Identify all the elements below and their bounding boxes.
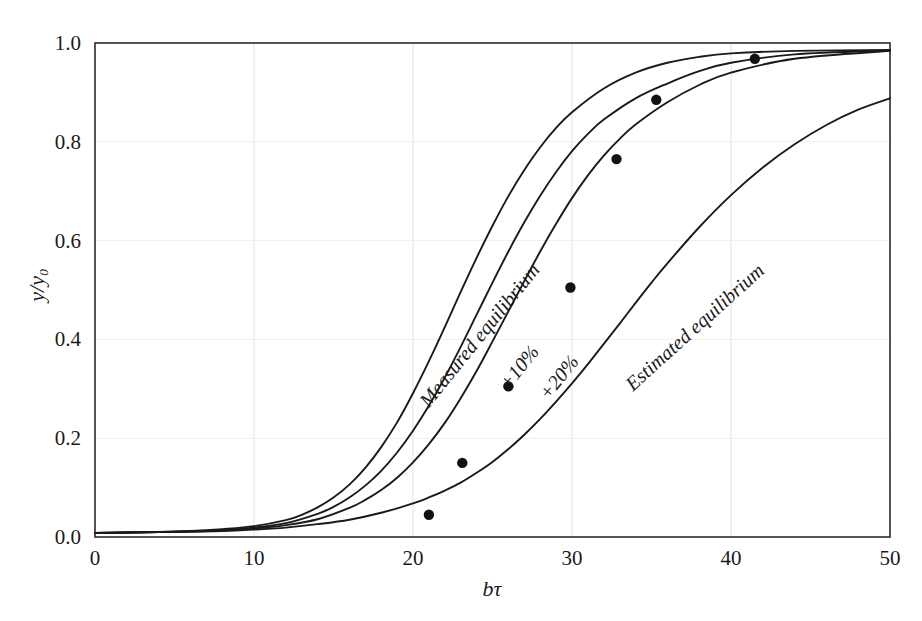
data-point-7 <box>750 54 760 64</box>
data-point-2 <box>457 458 467 468</box>
x-axis-title: bτ <box>483 576 503 601</box>
data-point-1 <box>424 510 434 520</box>
chart-figure: Measured equilibrium+10%+20%Estimated eq… <box>0 0 922 621</box>
data-point-6 <box>651 95 661 105</box>
y-tick-label-3: 0.6 <box>55 229 81 253</box>
y-tick-label-1: 0.2 <box>55 426 81 450</box>
svg-text:y/y₀: y/y₀ <box>24 268 49 303</box>
y-tick-label-0: 0.0 <box>55 525 81 549</box>
chart-svg: Measured equilibrium+10%+20%Estimated eq… <box>0 0 922 621</box>
y-axis-title: y/y₀ <box>24 268 49 303</box>
x-tick-label-4: 40 <box>721 546 742 570</box>
data-point-5 <box>611 154 621 164</box>
x-tick-label-3: 30 <box>562 546 583 570</box>
x-tick-label-0: 0 <box>90 546 101 570</box>
x-tick-label-1: 10 <box>244 546 265 570</box>
chart-background <box>0 0 922 621</box>
y-tick-label-4: 0.8 <box>55 130 81 154</box>
data-point-4 <box>565 282 575 292</box>
x-tick-label-2: 20 <box>403 546 424 570</box>
y-tick-label-2: 0.4 <box>55 327 82 351</box>
x-tick-label-5: 50 <box>880 546 901 570</box>
y-tick-label-5: 1.0 <box>55 31 81 55</box>
